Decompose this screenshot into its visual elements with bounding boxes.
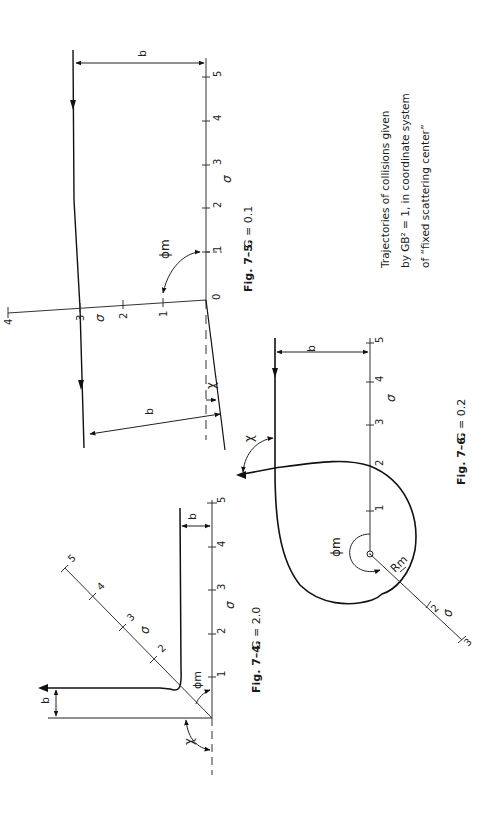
- tick-label: 4: [212, 115, 223, 121]
- tick-label: 3: [75, 315, 86, 321]
- caption-line: Trajectories of collisions given: [379, 111, 391, 269]
- tick-label: 1: [212, 246, 223, 252]
- label-b: b: [136, 50, 149, 57]
- rotated-sigma-axis: [370, 554, 462, 640]
- trajectory-line: [40, 508, 181, 690]
- caption-line: by GB² = 1, in coordinate system: [399, 93, 411, 268]
- caption-line: of “fixed scattering center”: [419, 124, 431, 268]
- origin-label: 0: [211, 294, 222, 300]
- tick-label: 2: [216, 628, 227, 634]
- label-chi: χ: [204, 382, 218, 389]
- rotated-axis-label: σ: [93, 314, 107, 322]
- rotated-sigma-axis: [65, 568, 212, 718]
- tick-label: 2: [429, 602, 441, 614]
- direction-arrow-icon: [70, 100, 76, 110]
- tick-label: 5: [216, 497, 227, 503]
- direction-arrow-icon: [78, 380, 84, 390]
- figure-caption-eq: G = 0.1: [242, 206, 255, 248]
- tick-label: 2: [156, 642, 168, 654]
- tick-label: 2: [118, 313, 129, 319]
- rotated-axis-label: σ: [441, 609, 455, 617]
- direction-arrow-icon: [272, 368, 278, 378]
- figure-7-6: 5 4 3 2 1 σ b χ ϕm Rm 2: [236, 337, 474, 649]
- tick-label: 3: [462, 636, 474, 648]
- tick-label: 3: [212, 159, 223, 165]
- label-chi: χ: [242, 435, 256, 442]
- tick-label: 3: [125, 611, 137, 623]
- label-b: b: [39, 697, 52, 704]
- label-phi-m: ϕm: [329, 537, 343, 557]
- label-chi: χ: [182, 738, 196, 745]
- label-b: b: [305, 345, 318, 352]
- figure-caption-eq: G = 2.0: [250, 607, 263, 649]
- trajectory-line: [73, 50, 84, 448]
- figure-7-5: 5 4 3 2 1 0 σ b 1 2 3 4 σ ϕm: [3, 50, 255, 450]
- axis-label-sigma: σ: [384, 394, 398, 402]
- tick-label: 3: [216, 584, 227, 590]
- figure-caption-eq: G = 0.2: [455, 399, 468, 441]
- outgoing-trajectory: [206, 300, 225, 450]
- tick-label: 4: [216, 541, 227, 547]
- label-phi-m: ϕm: [191, 671, 204, 689]
- chi-arc: [243, 438, 273, 472]
- axis-label-sigma: σ: [223, 601, 237, 609]
- tick-label: 1: [158, 311, 169, 317]
- label-phi-m: ϕm: [158, 239, 172, 259]
- rotated-axis-label: σ: [138, 626, 152, 634]
- axis-label-sigma: σ: [220, 175, 234, 183]
- tick-label: 5: [212, 71, 223, 77]
- diagram-canvas: 5 4 3 2 1 0 σ b 1 2 3 4 σ ϕm: [0, 0, 497, 824]
- direction-arrow-icon: [236, 471, 246, 479]
- label-b: b: [186, 513, 199, 520]
- direction-arrow-icon: [38, 684, 48, 692]
- tick-label: 4: [95, 580, 107, 592]
- tick-label: 2: [212, 202, 223, 208]
- tick-label: 1: [216, 671, 227, 677]
- tick-label: 5: [374, 337, 385, 343]
- tick-label: 1: [374, 505, 385, 511]
- page-caption-block: Trajectories of collisions given by GB² …: [379, 93, 431, 269]
- label-b: b: [143, 408, 156, 415]
- impact-parameter-dimension: [90, 414, 220, 434]
- figure-7-4: 5 4 3 2 1 σ b b 2 3 4 5 σ: [38, 497, 263, 775]
- phi-arc: [350, 534, 380, 572]
- phi-arc: [196, 690, 210, 704]
- tick-label: 3: [374, 419, 385, 425]
- tick-label: 4: [374, 376, 385, 382]
- rotated-sigma-axis: [8, 300, 206, 313]
- tick-label: 5: [66, 552, 78, 564]
- tick-label: 2: [374, 460, 385, 466]
- tick-label: 4: [3, 319, 14, 325]
